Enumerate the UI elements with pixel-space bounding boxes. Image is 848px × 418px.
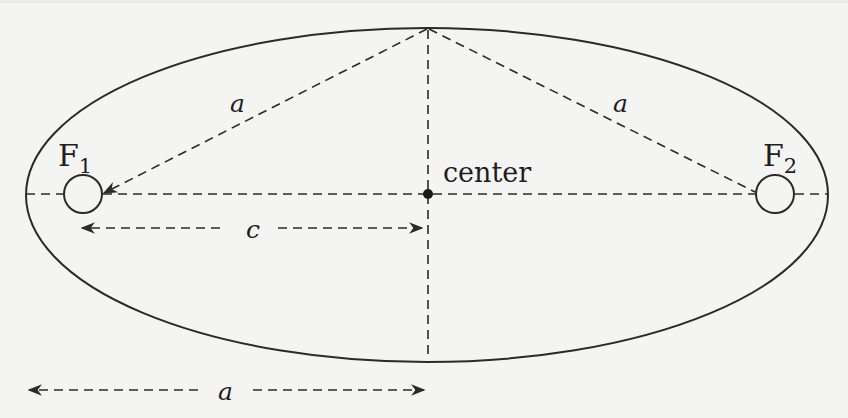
- focus2-subscript: 2: [784, 154, 797, 178]
- center-label: center: [443, 157, 531, 188]
- top-crop-strip: [0, 0, 848, 3]
- focus2-label: F2: [763, 138, 797, 178]
- focus2-circle: [756, 175, 794, 213]
- diagonal-left-to-f1: [104, 29, 427, 193]
- focus1-label: F1: [58, 138, 92, 178]
- ellipse-diagram: F1 F2 center a a c a: [0, 0, 848, 418]
- a-label-right-diagonal: a: [613, 89, 628, 118]
- focus1-circle: [64, 175, 102, 213]
- a-label-bottom: a: [218, 377, 233, 406]
- focus1-subscript: 1: [79, 154, 92, 178]
- c-label: c: [246, 215, 260, 244]
- center-dot: [423, 189, 433, 199]
- a-label-left-diagonal: a: [230, 89, 245, 118]
